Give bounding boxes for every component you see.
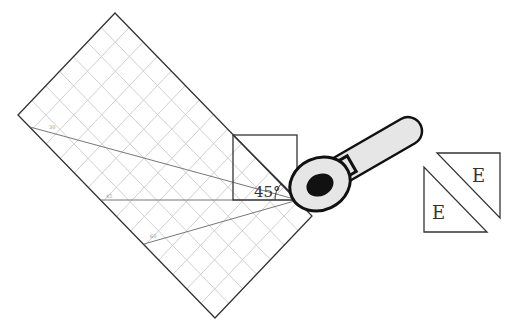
- ray-label-30: 30: [49, 124, 55, 130]
- triangle-label-top: E: [472, 165, 485, 186]
- angle-label: 45°: [254, 183, 281, 201]
- triangle-label-bottom: E: [432, 202, 445, 223]
- diagram-canvas: 30 45 60 45° E E: [0, 0, 507, 320]
- triangle-top: [437, 153, 500, 218]
- ray-label-60: 60: [150, 233, 156, 239]
- ray-label-45: 45: [106, 193, 112, 199]
- rotary-cutter-icon: [281, 112, 427, 221]
- cutting-mat-grid: [32, 28, 298, 304]
- half-square-triangles: E E: [424, 153, 500, 232]
